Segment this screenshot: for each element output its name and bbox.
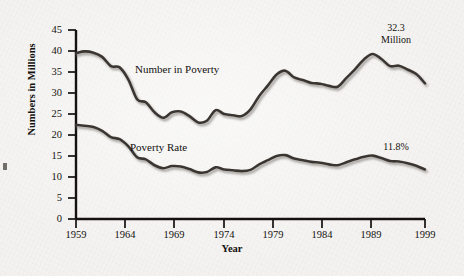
number-end-annotation-unit: Million (368, 34, 424, 46)
number-end-annotation: 32.3 Million (368, 22, 424, 45)
x-tick-label-1974: 1974 (202, 229, 246, 240)
number-in-poverty-line (76, 51, 425, 122)
x-tick-label-1989: 1989 (349, 229, 393, 240)
x-tick-label-1999: 1999 (403, 229, 447, 240)
number-end-annotation-value: 32.3 (368, 22, 424, 34)
poverty-chart-figure: 45 40 35 30 25 20 15 10 5 0 1959 1964 19… (0, 0, 464, 276)
y-tick-label-45: 45 (40, 24, 62, 35)
y-tick-label-15: 15 (40, 150, 62, 161)
poverty-rate-label: Poverty Rate (130, 141, 187, 153)
y-tick-label-35: 35 (40, 66, 62, 77)
x-axis-title: Year (0, 243, 464, 254)
x-tick-label-1959: 1959 (54, 229, 98, 240)
y-axis-title: Numbers in Millions (26, 35, 37, 145)
number-in-poverty-label: Number in Poverty (135, 63, 219, 75)
y-tick-label-25: 25 (40, 108, 62, 119)
x-tick-label-1969: 1969 (152, 229, 196, 240)
x-tick-label-1979: 1979 (251, 229, 295, 240)
x-tick-label-1964: 1964 (103, 229, 147, 240)
y-tick-label-10: 10 (40, 171, 62, 182)
y-tick-label-0: 0 (40, 213, 62, 224)
y-tick-label-5: 5 (40, 192, 62, 203)
y-tick-label-20: 20 (40, 129, 62, 140)
y-tick-label-30: 30 (40, 87, 62, 98)
y-tick-label-40: 40 (40, 45, 62, 56)
x-axis-ticks (76, 219, 425, 228)
x-tick-label-1984: 1984 (300, 229, 344, 240)
rate-end-annotation: 11.8% (368, 141, 424, 153)
